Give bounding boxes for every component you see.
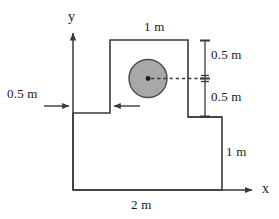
dimension-label-left-offset: 0.5 m — [7, 87, 38, 100]
dimension-label-bottom-width: 2 m — [131, 198, 151, 211]
dimension-label-top-width: 1 m — [144, 20, 164, 33]
x-axis-label: x — [262, 182, 269, 196]
engineering-diagram: 1 m 0.5 m 0.5 m 0.5 m 1 m 2 m y x — [0, 0, 279, 219]
dimension-label-right-lower-offset: 0.5 m — [211, 90, 242, 103]
diagram-canvas — [0, 0, 279, 219]
dimension-label-right-height: 1 m — [226, 145, 246, 158]
y-axis-label: y — [68, 10, 75, 24]
hole-center-dot — [146, 76, 151, 81]
dimension-label-right-upper-offset: 0.5 m — [211, 48, 242, 61]
